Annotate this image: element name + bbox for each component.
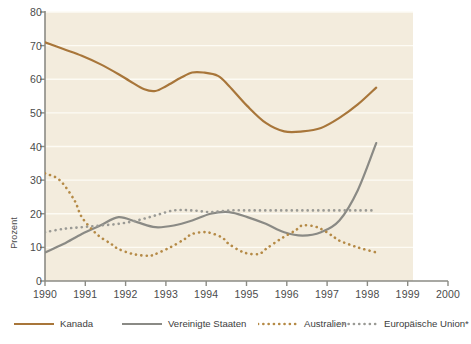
x-axis-tick-label: 1992 (103, 288, 149, 300)
y-axis-tick-labels: 01020304050607080 (4, 0, 42, 300)
y-axis-tick-label: 80 (8, 6, 42, 18)
x-axis-tick-label: 1991 (62, 288, 108, 300)
y-axis-tick-label: 10 (8, 241, 42, 253)
legend-swatch-3 (258, 319, 298, 329)
legend-item: Vereinigte Staaten (122, 316, 246, 332)
x-axis-tick-label: 1998 (344, 288, 390, 300)
x-axis-tick-label: 1994 (183, 288, 229, 300)
legend-swatch-2 (122, 319, 162, 329)
y-axis-tick-label: 0 (8, 275, 42, 287)
chart-legend: KanadaVereinigte StaatenAustralienEuropä… (0, 316, 454, 336)
x-axis-tick-label: 1990 (22, 288, 68, 300)
legend-label: Vereinigte Staaten (168, 319, 246, 329)
legend-item: Kanada (14, 316, 93, 332)
x-axis-tick-label: 1999 (385, 288, 431, 300)
legend-swatch-4 (338, 319, 378, 329)
y-axis-tick-label: 50 (8, 107, 42, 119)
legend-swatch-1 (14, 319, 54, 329)
legend-label: Europäische Union* (384, 319, 469, 329)
x-axis-tick-label: 1996 (264, 288, 310, 300)
y-axis-tick-label: 30 (8, 174, 42, 186)
y-axis-tick-label: 70 (8, 40, 42, 52)
x-axis-tick-label: 1993 (143, 288, 189, 300)
y-axis-tick-label: 20 (8, 208, 42, 220)
legend-label: Kanada (60, 319, 93, 329)
y-axis-tick-label: 40 (8, 141, 42, 153)
x-axis-tick-label: 1997 (304, 288, 350, 300)
x-axis-tick-label: 2000 (425, 288, 471, 300)
legend-item: Australien (258, 316, 347, 332)
legend-item: Europäische Union* (338, 316, 469, 332)
y-axis-tick-label: 60 (8, 73, 42, 85)
x-axis-tick-label: 1995 (224, 288, 270, 300)
